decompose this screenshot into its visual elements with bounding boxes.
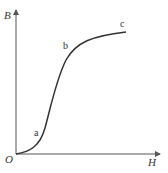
magnetization-curve [16,32,126,154]
point-b-label: b [63,40,68,51]
point-a-label: a [34,127,39,138]
point-c-label: c [120,18,125,29]
origin-label: O [5,153,13,165]
bh-magnetization-chart: B H O a b c [0,0,168,173]
x-axis-label: H [147,156,157,168]
chart-canvas: B H O a b c [0,0,168,173]
y-axis-label: B [4,9,11,21]
